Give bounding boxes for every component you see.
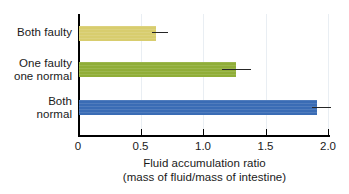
x-axis-tick	[266, 129, 267, 136]
x-axis-tick-label: 0.5	[121, 140, 161, 153]
x-axis-tick	[78, 129, 79, 136]
category-label-both-normal: Both normal	[0, 95, 72, 121]
category-label-line: normal	[0, 108, 72, 121]
category-label-line: Both	[0, 95, 72, 108]
x-axis-tick-label: 2.0	[308, 140, 348, 153]
category-label-both-faulty: Both faulty	[0, 26, 72, 39]
category-label-one-faulty-one-normal: One faulty one normal	[0, 57, 72, 83]
bar-one-faulty-one-normal	[79, 62, 236, 77]
x-axis-title: Fluid accumulation ratio (mass of fluid/…	[60, 156, 349, 184]
x-axis-tick	[328, 129, 329, 136]
x-axis-title-line1: Fluid accumulation ratio	[60, 156, 349, 170]
x-axis-tick-label: 1.0	[183, 140, 223, 153]
x-axis-tick	[203, 129, 204, 136]
x-axis-tick-label: 0	[58, 140, 98, 153]
error-bar-both-faulty	[152, 32, 168, 33]
x-axis-tick	[141, 129, 142, 136]
gridline	[328, 14, 329, 135]
x-axis-tick-label: 1.5	[246, 140, 286, 153]
category-label-line: one normal	[0, 70, 72, 83]
bar-both-normal	[79, 100, 317, 115]
x-axis-title-line2: (mass of fluid/mass of intestine)	[60, 170, 349, 184]
bar-both-faulty	[79, 26, 156, 41]
error-bar-one-faulty-one-normal	[222, 69, 251, 70]
gridline	[266, 14, 267, 135]
category-label-line: One faulty	[0, 57, 72, 70]
fluid-accumulation-bar-chart: CFTR gene copies Both faulty One faulty …	[0, 0, 349, 194]
category-label-line: Both faulty	[0, 26, 72, 39]
error-bar-both-normal	[312, 107, 331, 108]
